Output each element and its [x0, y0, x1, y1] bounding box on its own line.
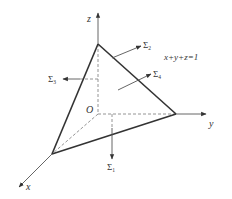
plane-equation-label: x+y+z=1: [163, 52, 198, 62]
svg-text:Σ3: Σ3: [48, 74, 56, 85]
svg-text:Σ4: Σ4: [153, 69, 161, 80]
sigma2-subscript: 2: [148, 45, 151, 51]
sigma1-label: Σ1: [107, 162, 115, 173]
svg-text:Σ2: Σ2: [143, 40, 151, 51]
sigma3-subscript: 3: [53, 79, 56, 85]
y-axis-label: y: [208, 118, 214, 129]
edge-x-to-y: [52, 114, 176, 154]
sigma2-label: Σ2: [143, 40, 151, 51]
svg-text:Σ1: Σ1: [107, 162, 115, 173]
hidden-edges: [52, 44, 176, 154]
normal-vectors: [63, 46, 151, 159]
edge-z-to-x: [52, 44, 98, 154]
hidden-x-edge: [52, 114, 98, 154]
tetrahedron-diagram: z y x O x+y+z=1 Σ3 Σ2 Σ4 Σ1: [0, 0, 232, 199]
x-axis-label: x: [25, 181, 31, 192]
sigma3-label: Σ3: [48, 74, 56, 85]
sigma4-label: Σ4: [153, 69, 161, 80]
axes: [19, 13, 206, 187]
x-axis: [19, 154, 52, 187]
z-axis-label: z: [86, 13, 91, 24]
sigma4-subscript: 4: [158, 74, 161, 80]
sigma2-normal-arrow: [112, 46, 141, 58]
origin-label: O: [86, 104, 93, 115]
sigma1-subscript: 1: [112, 167, 115, 173]
